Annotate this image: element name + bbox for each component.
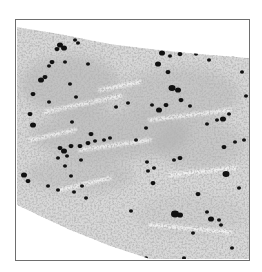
nucleus-dot <box>145 160 149 163</box>
nucleus-dot <box>46 184 50 187</box>
nucleus-dot <box>73 38 77 41</box>
nucleus-dot <box>217 218 221 221</box>
nucleus-dot <box>242 138 246 141</box>
nucleus-dot <box>179 98 184 102</box>
nucleus-dot <box>56 156 60 159</box>
nucleus-dot <box>69 144 74 148</box>
nucleus-dot <box>89 132 94 136</box>
nucleus-dot <box>191 231 195 234</box>
nucleus-dot <box>159 50 165 55</box>
nucleus-dot <box>43 75 48 79</box>
nucleus-dot <box>178 156 183 160</box>
nucleus-dot <box>175 87 181 92</box>
nucleus-dot <box>93 139 97 142</box>
nucleus-dot <box>177 212 183 217</box>
nucleus-dot <box>172 158 176 161</box>
nucleus-dot <box>207 58 211 61</box>
nucleus-dot <box>79 158 83 161</box>
nucleus-dot <box>80 184 84 187</box>
nucleus-dot <box>178 52 183 56</box>
nucleus-dot <box>205 210 209 213</box>
nucleus-dot <box>70 120 74 123</box>
nucleus-dot <box>220 116 226 121</box>
nucleus-dot <box>47 100 51 103</box>
nucleus-dot <box>223 171 230 177</box>
nucleus-dot <box>86 141 91 145</box>
nucleus-dot <box>164 103 169 107</box>
nucleus-dot <box>28 112 33 116</box>
nucleus-dot <box>150 103 154 106</box>
nucleus-dot <box>65 154 69 157</box>
nucleus-dot <box>233 140 237 143</box>
nucleus-dot <box>114 105 118 108</box>
nucleus-dot <box>74 95 78 98</box>
nucleus-dot <box>68 82 72 85</box>
nucleus-dot <box>58 146 63 150</box>
nucleus-dot <box>169 85 176 91</box>
nucleus-dot <box>166 70 171 74</box>
nucleus-dot <box>240 70 244 73</box>
nucleus-dot <box>63 164 67 167</box>
nucleus-dot <box>219 223 223 226</box>
nucleus-dot <box>21 172 27 177</box>
nucleus-dot <box>86 62 90 65</box>
nucleus-dot <box>129 209 133 212</box>
nucleus-dot <box>215 118 219 121</box>
nucleus-dot <box>78 144 83 148</box>
nucleus-dot <box>196 192 201 196</box>
nucleus-dot <box>55 47 60 51</box>
micrograph-image <box>0 0 262 272</box>
nucleus-dot <box>168 54 172 57</box>
nucleus-dot <box>69 174 73 177</box>
nucleus-dot <box>152 166 156 169</box>
nucleus-dot <box>237 186 241 189</box>
nucleus-dot <box>47 64 51 67</box>
nucleus-dot <box>205 122 209 125</box>
nucleus-dot <box>63 60 67 63</box>
nucleus-dot <box>61 45 67 50</box>
nucleus-dot <box>146 169 150 172</box>
nucleus-dot <box>26 179 31 183</box>
nucleus-dot <box>30 122 36 127</box>
nucleus-dot <box>56 188 60 191</box>
nucleus-dot <box>102 138 106 141</box>
nucleus-dot <box>84 196 88 199</box>
nucleus-dot <box>244 94 248 97</box>
nucleus-dot <box>134 138 138 141</box>
nucleus-dot <box>208 216 214 221</box>
nucleus-dot <box>188 104 192 107</box>
nucleus-dot <box>50 60 55 64</box>
nucleus-dot <box>72 190 76 193</box>
nucleus-dot <box>222 145 227 149</box>
nucleus-dot <box>108 136 112 139</box>
nucleus-dot <box>230 246 234 249</box>
nucleus-dot <box>126 101 130 104</box>
nucleus-dot <box>155 61 161 66</box>
nucleus-dot <box>31 92 36 96</box>
nucleus-dot <box>156 107 162 112</box>
nucleus-dot <box>76 41 80 44</box>
nucleus-dot <box>227 112 231 115</box>
nucleus-dot <box>144 126 148 129</box>
nucleus-dot <box>151 181 156 185</box>
